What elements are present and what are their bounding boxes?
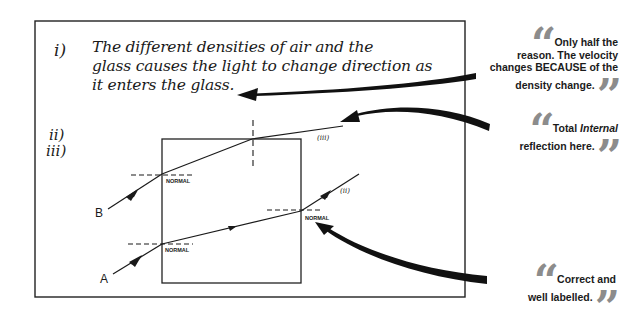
comment-tir-line-2: reflection here.” (488, 135, 618, 153)
close-quote-icon: ” (597, 70, 618, 121)
normal-label-a-exit: NORMAL (305, 215, 330, 221)
ray-iii-label: (iii) (317, 134, 329, 142)
open-quote-icon: “ (531, 19, 552, 70)
comment-correct: “Correct and well labelled.” (486, 268, 616, 303)
annotation-arrow-tir (356, 107, 490, 131)
close-quote-icon: ” (595, 282, 616, 321)
part-iii-label: iii) (46, 142, 66, 160)
comment-tir: “Total Internal reflection here.” (488, 117, 618, 152)
open-quote-icon: “ (530, 105, 551, 156)
comment-velocity-line-4: density change.” (478, 74, 618, 92)
answer-line-2: glass causes the light to change directi… (92, 57, 452, 76)
annotated-answer-sheet: B A NORMAL NORMAL NORMAL (ii) (iii) i) i… (0, 0, 626, 321)
ray-a-label: A (100, 272, 108, 286)
ray-b-refracted (162, 139, 252, 174)
ray-a-arrowhead (129, 255, 142, 267)
glass-block (162, 139, 301, 283)
answer-line-1: The different densities of air and the (92, 38, 452, 57)
open-quote-icon: “ (534, 256, 555, 307)
ray-ii (301, 174, 359, 211)
close-quote-icon: ” (597, 131, 618, 182)
normal-label-b: NORMAL (166, 178, 191, 184)
ray-a-inside-arrowhead (228, 226, 237, 231)
annotation-arrow-correct (325, 227, 487, 284)
ray-ii-label: (ii) (340, 187, 350, 195)
normal-label-a-entry: NORMAL (165, 247, 190, 253)
answer-text: The different densities of air and the g… (92, 38, 452, 95)
part-i-label: i) (54, 40, 66, 60)
answer-line-3: it enters the glass. (92, 76, 452, 95)
ray-iii (252, 126, 343, 139)
comment-velocity: “Only half the reason. The velocity chan… (478, 31, 618, 91)
comment-velocity-line-1: “Only half the (478, 31, 618, 49)
ray-b-label: B (95, 206, 103, 220)
annotation-arrow-tir-head (340, 110, 360, 122)
ray-b-arrowhead (126, 189, 138, 201)
